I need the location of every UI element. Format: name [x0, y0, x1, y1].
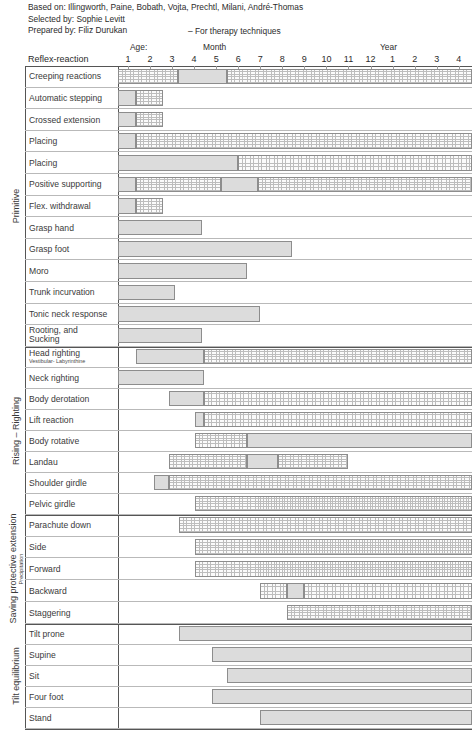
bar-segment-stippled[interactable] — [136, 112, 164, 128]
group-caption: Saving protective extensionPrecipitation — [8, 515, 24, 624]
chart-row[interactable]: Pelvic girdle — [25, 494, 472, 515]
chart-row[interactable]: Grasp foot — [25, 239, 472, 261]
row-label: Shoulder girdle — [29, 478, 87, 488]
chart-row[interactable]: PlacingLegs — [25, 152, 472, 174]
chart-row[interactable]: Grasp hand — [25, 217, 472, 239]
bar-segment-solid[interactable] — [118, 370, 204, 385]
row-label: Creeping reactions — [29, 71, 101, 81]
bar-segment-stippled[interactable] — [204, 412, 472, 427]
bar-segment-solid[interactable] — [118, 155, 238, 171]
chart-row[interactable]: Body rotative — [25, 431, 472, 452]
bar-segment-solid[interactable] — [154, 475, 168, 490]
bar-segment-solid[interactable] — [247, 433, 472, 448]
axis-age-label: Age: — [130, 42, 147, 52]
chart-row[interactable]: Stand — [25, 708, 472, 729]
chart-row[interactable]: Flex. withdrawal — [25, 196, 472, 218]
bar-segment-solid[interactable] — [118, 220, 202, 236]
axis-tick-1: 1 — [118, 54, 138, 64]
bar-segment-stippled[interactable] — [287, 605, 472, 621]
chart-row[interactable]: Tonic neck response — [25, 304, 472, 326]
chart-row[interactable]: Creeping reactions — [25, 66, 472, 88]
bar-segment-solid[interactable] — [118, 306, 260, 322]
bar-segment-stippled[interactable] — [195, 433, 247, 448]
chart-row[interactable]: Body derotation — [25, 389, 472, 410]
bar-segment-stippled[interactable] — [278, 454, 349, 469]
bar-segment-stippled[interactable] — [204, 391, 472, 406]
bar-segment-solid[interactable] — [287, 583, 305, 599]
bar-segment-stippled[interactable] — [258, 177, 472, 193]
bar-segment-solid[interactable] — [178, 69, 228, 85]
row-label: Neck righting — [29, 373, 79, 383]
bar-segment-stippled[interactable] — [238, 155, 472, 171]
chart-row[interactable]: Side — [25, 537, 472, 559]
bar-segment-solid[interactable] — [247, 454, 278, 469]
row-label: Side — [29, 542, 46, 552]
bar-segment-stippled[interactable] — [179, 517, 472, 533]
bar-segment-solid[interactable] — [118, 198, 136, 214]
bar-segment-solid[interactable] — [212, 647, 472, 662]
chart-row[interactable]: Landau — [25, 452, 472, 473]
bar-segment-stippled[interactable] — [195, 561, 472, 577]
bar-segment-solid[interactable] — [118, 90, 136, 106]
chart-row[interactable]: Trunk incurvation — [25, 282, 472, 304]
bar-segment-solid[interactable] — [118, 328, 202, 344]
row-label: Crossed extension — [29, 115, 100, 125]
bar-segment-stippled[interactable] — [204, 349, 472, 364]
chart-row[interactable]: Positive supporting — [25, 174, 472, 196]
chart-row[interactable]: Lift reaction — [25, 410, 472, 431]
row-label: Parachute down — [29, 520, 91, 530]
chart-row[interactable]: Forward — [25, 558, 472, 580]
bar-segment-stippled[interactable] — [136, 133, 472, 149]
axis-corner-label: Reflex-reaction — [28, 54, 89, 64]
bar-segment-solid[interactable] — [221, 177, 258, 193]
chart-row[interactable]: Crossed extension — [25, 109, 472, 131]
bar-segment-solid[interactable] — [118, 133, 136, 149]
axis-tick-5: 5 — [206, 54, 226, 64]
bar-segment-stippled[interactable] — [227, 69, 472, 85]
bar-segment-solid[interactable] — [227, 668, 472, 683]
bar-segment-stippled[interactable] — [169, 475, 472, 490]
chart-row[interactable]: StaggeringLateralAnteriorPosterior — [25, 602, 472, 624]
chart-row[interactable]: Shoulder girdle — [25, 473, 472, 494]
chart-row[interactable]: Backward — [25, 580, 472, 602]
chart-row[interactable]: Supine — [25, 645, 472, 666]
bar-segment-solid[interactable] — [136, 349, 204, 364]
row-label: Stand — [29, 713, 51, 723]
chart-row[interactable]: Neck righting — [25, 368, 472, 389]
chart-row[interactable]: Tilt prone — [25, 624, 472, 645]
axis-year-label: Year — [380, 42, 397, 52]
bar-segment-stippled[interactable] — [195, 496, 472, 511]
bar-segment-solid[interactable] — [260, 710, 472, 725]
chart-row[interactable]: Rooting, andSucking — [25, 325, 472, 347]
bar-segment-stippled[interactable] — [136, 198, 164, 214]
bar-segment-stippled[interactable] — [195, 539, 472, 555]
chart-row[interactable]: PlacingArms — [25, 131, 472, 153]
bar-segment-solid[interactable] — [118, 241, 292, 257]
bar-segment-solid[interactable] — [169, 391, 204, 406]
row-label: Head rightingVestibular- Labyrinthine — [29, 348, 85, 364]
bar-segment-solid[interactable] — [118, 112, 136, 128]
row-label: Grasp hand — [29, 223, 74, 233]
chart-row[interactable]: Sit — [25, 666, 472, 687]
bar-segment-stippled[interactable] — [136, 90, 164, 106]
bar-segment-stippled[interactable] — [169, 454, 247, 469]
bar-segment-stippled[interactable] — [260, 583, 286, 599]
bar-segment-stippled[interactable] — [118, 69, 178, 85]
bar-segment-solid[interactable] — [212, 689, 472, 704]
bar-segment-solid[interactable] — [118, 263, 247, 279]
axis-tick-9: 9 — [294, 54, 314, 64]
chart-row[interactable]: Four foot — [25, 687, 472, 708]
bar-segment-solid[interactable] — [118, 285, 175, 301]
bar-segment-solid[interactable] — [195, 412, 204, 427]
row-label: Grasp foot — [29, 244, 69, 254]
bar-segment-stippled[interactable] — [304, 583, 472, 599]
bar-segment-stippled[interactable] — [136, 177, 221, 193]
chart-row[interactable]: Head rightingVestibular- Labyrinthine — [25, 347, 472, 368]
chart-row[interactable]: Automatic stepping — [25, 88, 472, 110]
bar-segment-solid[interactable] — [179, 626, 472, 641]
row-label: Pelvic girdle — [29, 499, 75, 509]
chart-row[interactable]: Moro — [25, 260, 472, 282]
chart-row[interactable]: Parachute down — [25, 515, 472, 537]
axis-tick-2: 2 — [140, 54, 160, 64]
bar-segment-solid[interactable] — [118, 177, 136, 193]
